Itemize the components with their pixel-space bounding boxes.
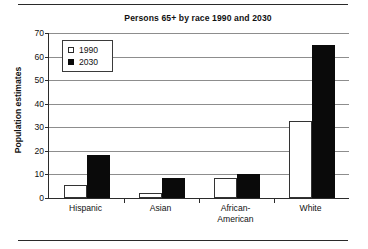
y-tick-mark [45,57,49,58]
y-tick-mark [45,104,49,105]
bottom-divider-rule [18,240,348,241]
legend-label-2030: 2030 [79,57,98,67]
bar-2030-african-american [237,174,260,198]
gridline [49,33,349,34]
y-tick-label: 70 [20,28,44,38]
top-divider-rule [18,4,348,5]
gridline [49,80,349,81]
gridline [49,104,349,105]
y-tick-mark [45,127,49,128]
x-axis-label-line: Asian [123,203,198,214]
y-tick-label: 60 [20,52,44,62]
x-axis-label-line: African- [198,203,273,214]
legend-label-1990: 1990 [79,45,98,55]
y-tick-label: 40 [20,99,44,109]
legend-swatch-1990-icon [68,47,74,53]
legend-item-2030[interactable]: 2030 [68,56,108,68]
y-tick-label: 10 [20,169,44,179]
x-axis-label-hispanic: Hispanic [48,203,123,214]
bar-1990-african-american [214,178,237,198]
bar-1990-white [289,121,312,198]
x-axis-label-line: American [198,214,273,225]
figure: Persons 65+ by race 1990 and 2030 Popula… [0,0,368,249]
legend-item-1990[interactable]: 1990 [68,44,108,56]
y-tick-label: 50 [20,75,44,85]
chart-legend[interactable]: 1990 2030 [62,40,113,72]
y-tick-label: 0 [20,193,44,203]
x-axis-label-line: Hispanic [48,203,123,214]
x-axis-label-white: White [273,203,348,214]
y-tick-mark [45,80,49,81]
bar-1990-asian [139,193,162,198]
chart-title: Persons 65+ by race 1990 and 2030 [48,13,348,23]
y-tick-label: 20 [20,146,44,156]
legend-swatch-2030-icon [68,59,74,65]
x-axis-label-african-american: African-American [198,203,273,225]
bar-1990-hispanic [64,185,87,198]
y-tick-mark [45,174,49,175]
bar-2030-white [312,45,335,198]
x-axis-label-line: White [273,203,348,214]
bar-2030-hispanic [87,155,110,198]
y-tick-label: 30 [20,122,44,132]
y-tick-mark [45,198,49,199]
x-axis-label-asian: Asian [123,203,198,214]
y-tick-mark [45,33,49,34]
y-tick-mark [45,151,49,152]
bar-2030-asian [162,178,185,198]
